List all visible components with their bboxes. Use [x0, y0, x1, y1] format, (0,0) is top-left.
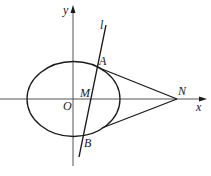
line-l-label: l [100, 19, 103, 31]
tangent-line-an [97, 67, 177, 99]
point-b-label: B [84, 137, 91, 149]
origin-label: O [63, 100, 72, 112]
tangent-line-bn [102, 99, 177, 128]
y-axis-arrow-icon [71, 5, 76, 13]
x-axis-label: x [196, 101, 201, 113]
y-axis [71, 5, 76, 166]
point-n-label: N [178, 85, 186, 97]
diagram-canvas: y l A M O N x B [0, 0, 211, 176]
y-axis-label: y [63, 4, 68, 16]
point-m-label: M [80, 87, 90, 99]
point-a-label: A [99, 55, 106, 67]
